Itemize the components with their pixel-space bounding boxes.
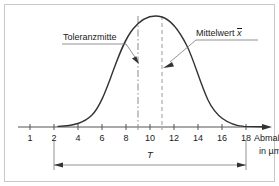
tick-label-10: 10 [145, 134, 155, 143]
tick-label-16: 16 [217, 134, 227, 143]
mittelwert-label-text: Mittelwert [196, 28, 237, 38]
tick-label-12: 12 [169, 134, 179, 143]
mittelwert-leader [163, 40, 258, 68]
gaussian-distribution-figure: 1 2 4 6 8 10 12 14 16 18 Abmaße in µm To… [0, 0, 279, 186]
tick-label-6: 6 [99, 134, 104, 143]
mittelwert-label: Mittelwert x [196, 29, 242, 38]
tick-label-8: 8 [123, 134, 128, 143]
axis-title-line1: Abmaße [254, 134, 279, 143]
tick-label-4: 4 [75, 134, 80, 143]
tick-label-18: 18 [241, 134, 251, 143]
toleranzmitte-label: Toleranzmitte [63, 33, 117, 42]
tick-label-2: 2 [51, 134, 56, 143]
tick-label-1: 1 [27, 134, 32, 143]
toleranzmitte-leader [62, 44, 139, 64]
tick-label-14: 14 [193, 134, 203, 143]
mittelwert-symbol: x [237, 29, 242, 38]
axis-title-line2: in µm [259, 147, 279, 156]
tolerance-span-label: T [147, 150, 153, 160]
